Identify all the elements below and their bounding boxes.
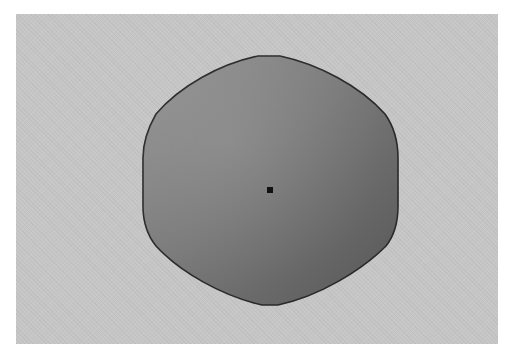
rendered-shape-canvas bbox=[0, 0, 514, 360]
shape-highlight bbox=[143, 56, 398, 305]
center-point-marker bbox=[267, 187, 273, 193]
